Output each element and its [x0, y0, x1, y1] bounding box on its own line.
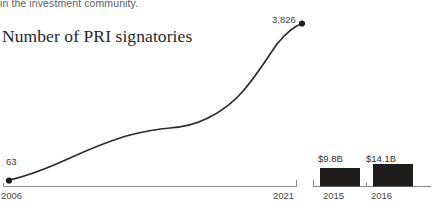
x-axis-label-start: 2006	[1, 190, 22, 201]
page-title: Number of PRI signatories	[2, 25, 192, 47]
bar-2015	[320, 168, 360, 187]
line-end-value-label: 3,826	[272, 14, 296, 25]
line-chart: Number of PRI signatories 63 3,826 2006 …	[0, 0, 310, 204]
signatories-trend-line	[9, 24, 301, 180]
bar-value-label-2015: $9.8B	[318, 153, 343, 164]
line-start-value-label: 63	[6, 156, 17, 167]
chart-figure: in the investment community. Number of P…	[0, 0, 433, 204]
x-axis-label-end: 2021	[273, 190, 294, 201]
bar-category-label-2015: 2015	[323, 190, 344, 201]
start-point-marker	[6, 177, 12, 183]
bar-2016	[373, 164, 413, 187]
bar-chart: $9.8B $14.1B 2015 2016	[305, 0, 433, 204]
bar-category-label-2016: 2016	[371, 190, 392, 201]
bar-chart-canvas	[305, 0, 433, 204]
bar-value-label-2016: $14.1B	[366, 153, 396, 164]
